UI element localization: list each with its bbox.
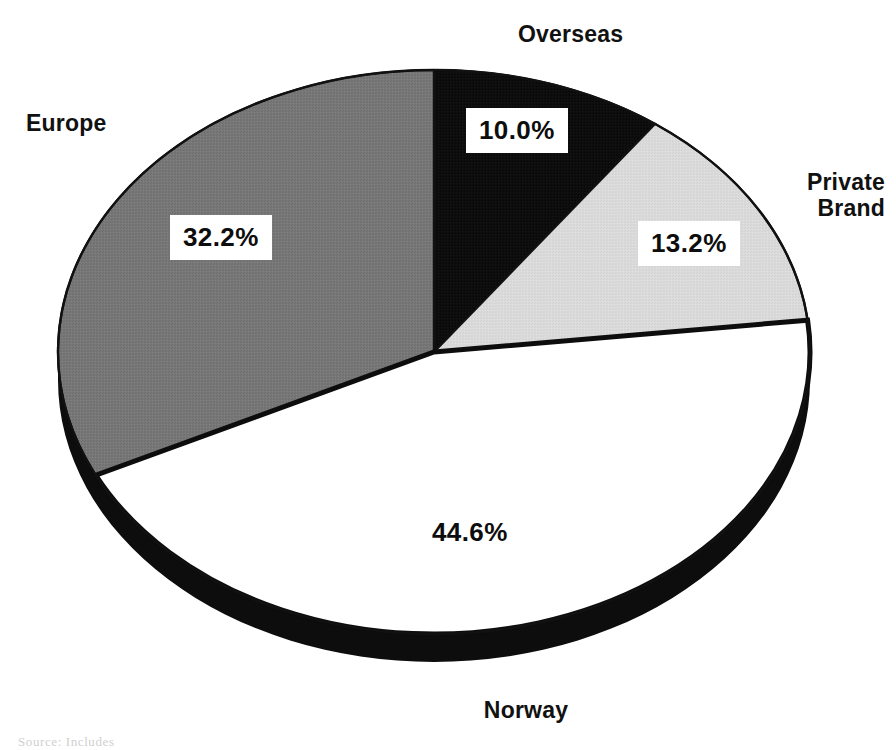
pie-chart: Overseas Europe Private Brand Norway 10.… <box>0 0 896 750</box>
source-footnote: Source: Includes <box>18 734 318 750</box>
pie-chart-graphic <box>0 0 896 750</box>
pie-value-norway: 44.6% <box>432 519 508 545</box>
pie-label-europe: Europe <box>26 111 106 137</box>
pie-label-norway: Norway <box>436 698 616 724</box>
pie-value-overseas: 10.0% <box>466 108 568 153</box>
pie-label-private-brand: Private Brand <box>757 170 885 222</box>
pie-slices <box>58 70 810 634</box>
pie-label-overseas: Overseas <box>518 22 623 48</box>
pie-value-private-brand: 13.2% <box>638 221 740 266</box>
pie-value-europe: 32.2% <box>170 215 272 260</box>
